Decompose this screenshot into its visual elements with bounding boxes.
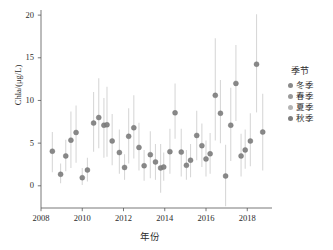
data-point bbox=[243, 147, 248, 152]
data-point bbox=[110, 139, 115, 144]
data-point bbox=[131, 125, 136, 130]
x-tick-label: 2018 bbox=[230, 213, 264, 223]
data-point bbox=[184, 163, 189, 168]
data-point bbox=[218, 111, 223, 116]
data-point bbox=[173, 110, 178, 115]
data-point bbox=[260, 130, 265, 135]
data-point bbox=[161, 165, 166, 170]
data-point bbox=[80, 175, 85, 180]
data-point bbox=[122, 165, 127, 170]
data-point bbox=[148, 152, 153, 157]
legend-item[interactable]: 春季 bbox=[288, 91, 333, 102]
legend-title: 季节 bbox=[291, 64, 333, 77]
data-point bbox=[194, 133, 199, 138]
data-point bbox=[96, 115, 101, 120]
legend-marker-icon bbox=[288, 94, 293, 99]
legend-item[interactable]: 冬季 bbox=[288, 80, 333, 91]
legend-item-label: 冬季 bbox=[296, 80, 314, 91]
legend-items: 冬季春季夏季秋季 bbox=[288, 80, 333, 124]
legend-item-label: 夏季 bbox=[296, 102, 314, 113]
x-axis-label: 年份 bbox=[100, 229, 200, 243]
data-point bbox=[188, 158, 193, 163]
data-point bbox=[223, 173, 228, 178]
legend-item-label: 春季 bbox=[296, 91, 314, 102]
data-point bbox=[254, 62, 259, 67]
x-tick-label: 2008 bbox=[24, 213, 58, 223]
data-point bbox=[248, 139, 253, 144]
data-point bbox=[117, 150, 122, 155]
data-point bbox=[91, 121, 96, 126]
data-point bbox=[228, 123, 233, 128]
y-tick-label: 10 bbox=[12, 95, 34, 105]
data-point bbox=[142, 163, 147, 168]
data-point bbox=[85, 168, 90, 173]
x-tick-label: 2010 bbox=[65, 213, 99, 223]
data-point bbox=[58, 172, 63, 177]
x-tick-label: 2016 bbox=[189, 213, 223, 223]
data-point bbox=[153, 159, 158, 164]
y-tick-label: 5 bbox=[12, 138, 34, 148]
data-point bbox=[179, 150, 184, 155]
data-point bbox=[50, 149, 55, 154]
legend-item-label: 秋季 bbox=[296, 113, 314, 124]
y-tick-label: 20 bbox=[12, 10, 34, 20]
data-point bbox=[204, 156, 209, 161]
chart-figure: Chla/(μg/L) 年份 0510152020082010201220142… bbox=[0, 0, 333, 250]
data-point bbox=[199, 143, 204, 148]
data-point bbox=[239, 153, 244, 158]
y-tick-label: 15 bbox=[12, 52, 34, 62]
data-point bbox=[233, 81, 238, 86]
data-point bbox=[68, 138, 73, 143]
data-point bbox=[74, 130, 79, 135]
data-point bbox=[105, 122, 110, 127]
legend-marker-icon bbox=[288, 83, 293, 88]
data-point bbox=[63, 153, 68, 158]
y-tick-label: 0 bbox=[12, 180, 34, 190]
data-point bbox=[208, 151, 213, 156]
legend-item[interactable]: 秋季 bbox=[288, 113, 333, 124]
x-tick-label: 2012 bbox=[107, 213, 141, 223]
legend-item[interactable]: 夏季 bbox=[288, 102, 333, 113]
legend-marker-icon bbox=[288, 105, 293, 110]
x-tick-label: 2014 bbox=[148, 213, 182, 223]
data-point bbox=[213, 93, 218, 98]
data-point bbox=[136, 145, 141, 150]
data-point bbox=[167, 149, 172, 154]
legend: 季节 冬季春季夏季秋季 bbox=[288, 64, 333, 124]
data-point bbox=[126, 134, 131, 139]
legend-marker-icon bbox=[288, 116, 293, 121]
